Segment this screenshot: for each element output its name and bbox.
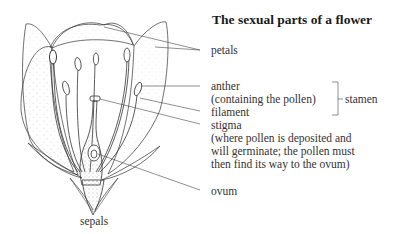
label-anther-note: (containing the pollen) <box>211 93 316 106</box>
label-filament: filament <box>211 106 249 119</box>
flower-illustration <box>0 0 399 234</box>
label-petals: petals <box>211 44 238 57</box>
label-stigma: stigma <box>211 119 242 132</box>
pistil-drawing <box>80 96 104 215</box>
label-stamen: stamen <box>345 93 378 106</box>
label-anther: anther <box>211 80 240 93</box>
diagram-title: The sexual parts of a flower <box>212 12 372 28</box>
leader-lines <box>70 27 343 212</box>
label-ovum: ovum <box>211 185 237 198</box>
label-stigma-note-2: will germinate; the pollen must <box>211 145 355 158</box>
label-sepals: sepals <box>80 215 108 228</box>
label-stigma-note-3: then find its way to the ovum) <box>211 158 350 171</box>
label-stigma-note-1: (where pollen is deposited and <box>211 132 352 145</box>
